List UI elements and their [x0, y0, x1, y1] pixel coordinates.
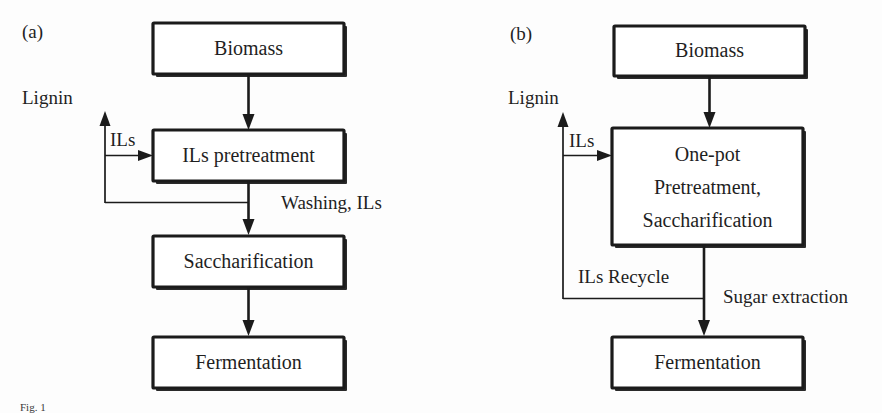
panel-a-edge-label-lignin: Lignin: [22, 87, 73, 108]
panel-b-edge-label-sugar-extraction: Sugar extraction: [723, 286, 849, 307]
panel-a-edge-label-ils: ILs: [110, 129, 135, 150]
panel-a-box-ils-pretreatment[interactable]: ILs pretreatment: [153, 130, 347, 184]
panel-a-box-saccharification-label: Saccharification: [184, 250, 314, 272]
panel-a-label: (a): [22, 21, 43, 43]
panel-b-arrow-biomass-to-onepot: [704, 76, 716, 128]
panel-a: (a) Biomass ILs pretreatment: [22, 21, 382, 391]
panel-b-edge-label-lignin: Lignin: [508, 87, 559, 108]
panel-b-box-fermentation[interactable]: Fermentation: [612, 337, 806, 391]
figure-caption: Fig. 1: [20, 401, 46, 413]
panel-b-box-onepot[interactable]: One-pot Pretreatment, Saccharification: [612, 128, 806, 248]
panel-b-label: (b): [510, 23, 532, 45]
panel-a-arrow-pretreatment-to-saccharification: [105, 181, 255, 235]
panel-b-box-onepot-label-line1: One-pot: [675, 143, 741, 166]
panel-a-arrow-biomass-to-pretreatment: [243, 74, 255, 130]
panel-a-box-fermentation-label: Fermentation: [195, 351, 302, 373]
panel-b-arrow-lignin: [558, 112, 569, 299]
panel-a-arrow-ils-in: [105, 150, 153, 161]
panel-a-arrow-lignin: [100, 111, 111, 203]
panel-b-box-onepot-label-line3: Saccharification: [643, 209, 773, 231]
panel-a-box-biomass-label: Biomass: [214, 37, 283, 59]
panel-a-box-saccharification[interactable]: Saccharification: [153, 236, 347, 290]
flow-diagram-svg: (a) Biomass ILs pretreatment: [0, 0, 882, 413]
panel-a-box-biomass[interactable]: Biomass: [153, 23, 347, 77]
panel-b-edge-label-ils: ILs: [569, 130, 594, 151]
panel-b-edge-label-ils-recycle: ILs Recycle: [578, 266, 669, 287]
panel-b-arrow-onepot-to-fermentation: [563, 245, 710, 336]
panel-a-arrow-saccharification-to-fermentation: [243, 287, 255, 336]
panel-b: (b) Biomass One-pot Pretreatment, Saccha…: [508, 23, 849, 391]
panel-b-arrow-ils-in: [563, 150, 612, 161]
panel-b-box-biomass[interactable]: Biomass: [614, 26, 808, 79]
panel-a-box-ils-pretreatment-label: ILs pretreatment: [182, 144, 315, 167]
panel-a-box-fermentation[interactable]: Fermentation: [153, 337, 347, 391]
figure-root: (a) Biomass ILs pretreatment: [0, 0, 882, 413]
panel-b-box-fermentation-label: Fermentation: [654, 351, 761, 373]
panel-a-edge-label-washing: Washing, ILs: [281, 192, 382, 213]
panel-b-box-biomass-label: Biomass: [675, 39, 744, 61]
panel-b-box-onepot-label-line2: Pretreatment,: [654, 176, 761, 198]
